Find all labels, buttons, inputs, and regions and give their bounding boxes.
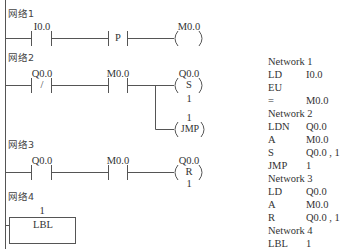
il-line: JMP1: [268, 159, 338, 172]
network-1-title: 网络1: [8, 8, 34, 19]
il-op: R: [268, 211, 306, 224]
contact-address: I0.0: [26, 21, 58, 33]
instruction-list: Network 1 LDI0.0 EU =M0.0 Network 2 LDNQ…: [268, 55, 338, 249]
set-coil-symbol: S: [178, 79, 200, 91]
contact-address: M0.0: [101, 155, 135, 167]
il-operand: Q0.0: [306, 186, 327, 197]
positive-edge-symbol: P: [108, 32, 128, 44]
coil-address: M0.0: [172, 21, 206, 33]
network-3-title: 网络3: [8, 139, 34, 150]
il-line: EU: [268, 81, 338, 94]
il-line: AM0.0: [268, 133, 338, 146]
il-op: EU: [268, 81, 306, 94]
il-op: LD: [268, 185, 306, 198]
contact-address: M0.0: [101, 68, 135, 80]
il-line: SQ0.0 , 1: [268, 146, 338, 159]
il-op: LDN: [268, 120, 306, 133]
coil-m0-0-right-arc: [199, 31, 202, 46]
nc-slash-symbol: /: [32, 79, 52, 91]
il-op: LBL: [268, 237, 306, 249]
il-network-3-title: Network 3: [268, 172, 338, 185]
il-op: =: [268, 94, 306, 107]
reset-coil-count: 1: [178, 178, 200, 190]
il-op: A: [268, 133, 306, 146]
il-line: LDI0.0: [268, 68, 338, 81]
il-line: =M0.0: [268, 94, 338, 107]
jmp-coil-symbol: JMP: [176, 123, 204, 135]
il-op: JMP: [268, 159, 306, 172]
il-op: LD: [268, 68, 306, 81]
il-operand: M0.0: [306, 95, 328, 106]
il-op: A: [268, 198, 306, 211]
il-line: LDQ0.0: [268, 185, 338, 198]
network-2-title: 网络2: [8, 52, 34, 63]
il-operand: I0.0: [306, 69, 323, 80]
reset-coil-symbol: R: [178, 166, 200, 178]
il-network-1-title: Network 1: [268, 55, 338, 68]
set-coil-count: 1: [178, 93, 200, 105]
lbl-number: 1: [31, 205, 53, 217]
il-operand: 1: [306, 160, 311, 171]
network-4-title: 网络4: [8, 191, 34, 202]
il-network-2-title: Network 2: [268, 107, 338, 120]
network-1-rung: [6, 31, 203, 46]
coil-m0-0-left-arc: [175, 31, 178, 46]
il-operand: Q0.0 , 1: [306, 147, 340, 158]
il-operand: Q0.0: [306, 121, 327, 132]
il-line: RQ0.0 , 1: [268, 211, 338, 224]
il-line: LBL1: [268, 237, 338, 249]
contact-address: Q0.0: [26, 155, 58, 167]
il-operand: 1: [306, 238, 311, 249]
il-operand: M0.0: [306, 134, 328, 145]
network-3-rung: [6, 165, 203, 180]
il-network-4-title: Network 4: [268, 224, 338, 237]
il-operand: Q0.0 , 1: [306, 212, 340, 223]
il-op: S: [268, 146, 306, 159]
il-operand: M0.0: [306, 199, 328, 210]
il-line: LDNQ0.0: [268, 120, 338, 133]
lbl-box-symbol: LBL: [10, 219, 76, 231]
il-line: AM0.0: [268, 198, 338, 211]
